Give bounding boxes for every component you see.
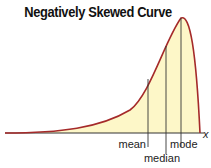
x-axis-label: x bbox=[202, 128, 209, 140]
median-label: median bbox=[144, 152, 180, 164]
mode-label: mode bbox=[170, 138, 198, 150]
skewed-curve-diagram: x mean median mode bbox=[0, 0, 211, 168]
mean-label: mean bbox=[118, 138, 146, 150]
